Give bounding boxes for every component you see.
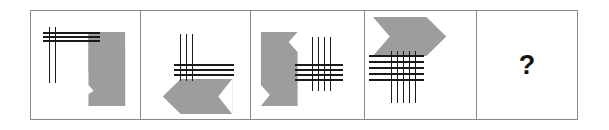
panel-3-graphic [251,11,364,119]
puzzle-panel-4[interactable]: grey right-pointing chevron arrow 5 vert… [365,11,477,119]
question-mark-icon: ? [477,11,577,119]
puzzle-panel-5-answer[interactable]: ? [477,11,577,119]
chevron-right-shape [373,17,446,56]
puzzle-panel-2[interactable]: grey left-pointing chevron arrow 3 verti… [141,11,251,119]
bowtie-shape [88,32,125,106]
chevron-left-shape [163,79,232,114]
bowtie-shape [261,32,298,106]
panel-1-graphic [31,11,140,119]
line-grid [369,51,425,103]
panel-4-graphic [365,11,476,119]
panel-2-graphic [141,11,250,119]
puzzle-figure: grey bowtie ribbon 2 vertical by 3 horiz… [0,0,609,130]
panel-strip: grey bowtie ribbon 2 vertical by 3 horiz… [30,10,578,120]
line-grid [295,37,344,91]
puzzle-panel-1[interactable]: grey bowtie ribbon 2 vertical by 3 horiz… [31,11,141,119]
puzzle-panel-3[interactable]: grey bowtie ribbon 4 vertical by 4 horiz… [251,11,365,119]
line-grid [174,34,234,81]
